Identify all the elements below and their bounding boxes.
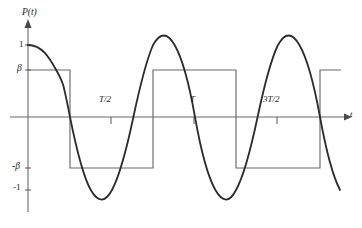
y-label-negative-one: -1 [13,183,21,192]
square-wave-curve [28,70,341,168]
y-axis-title: P(t) [22,8,37,18]
y-axis-arrow-icon [25,19,32,28]
x-axis-title: t [350,110,353,119]
x-label-t-half: T/2 [99,95,111,104]
y-label-one: 1 [19,40,24,49]
y-label-beta: β [17,64,22,74]
x-label-3t-half: 3T/2 [263,95,280,104]
y-label-negative-beta: -β [12,162,20,172]
figure-container: P(t) 1 β -β -1 T/2 T 3T/2 t [0,0,362,228]
x-label-t: T [190,95,195,104]
plot-canvas [0,0,362,228]
